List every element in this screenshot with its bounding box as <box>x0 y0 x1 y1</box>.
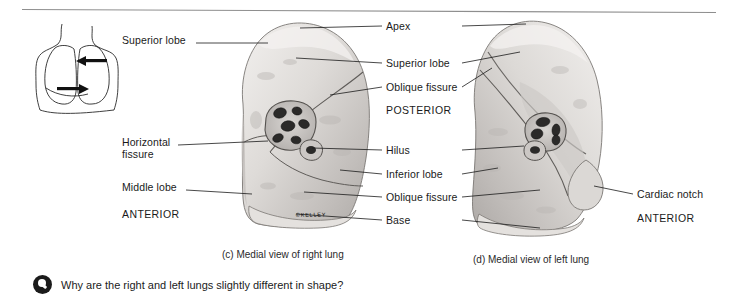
inset-arrow-lower <box>57 84 89 94</box>
label-posterior: POSTERIOR <box>386 104 451 116</box>
label-horizontal-fissure-line1: Horizontal <box>122 136 170 148</box>
question-marker-icon <box>33 275 52 294</box>
question-text: Why are the right and left lungs slightl… <box>61 279 343 291</box>
label-horizontal-fissure-line2: fissure <box>122 148 154 160</box>
label-superior-lobe-center: Superior lobe <box>386 57 450 69</box>
caption-right-lung: (c) Medial view of right lung <box>222 249 344 260</box>
figure-root: ©KELLEY <box>0 0 737 301</box>
label-hilus: Hilus <box>386 144 410 156</box>
thorax-inset <box>36 24 118 113</box>
inset-arrow-upper <box>76 56 107 66</box>
left-lung-illustration <box>473 21 604 236</box>
top-rule <box>22 10 716 13</box>
label-inferior-lobe: Inferior lobe <box>386 168 443 180</box>
caption-left-lung: (d) Medial view of left lung <box>473 254 589 265</box>
question-row: Why are the right and left lungs slightl… <box>33 275 343 294</box>
label-anterior-right: ANTERIOR <box>637 212 694 224</box>
label-oblique-fissure-upper: Oblique fissure <box>386 81 458 93</box>
label-apex: Apex <box>386 20 410 32</box>
label-middle-lobe: Middle lobe <box>122 181 177 193</box>
label-oblique-fissure-lower: Oblique fissure <box>386 191 458 203</box>
label-base: Base <box>386 214 410 226</box>
label-cardiac-notch: Cardiac notch <box>637 188 703 200</box>
label-anterior-left: ANTERIOR <box>122 208 179 220</box>
label-superior-lobe-left: Superior lobe <box>122 34 186 46</box>
right-lung-illustration: ©KELLEY <box>242 23 370 228</box>
anatomy-illustration: ©KELLEY <box>0 0 737 301</box>
